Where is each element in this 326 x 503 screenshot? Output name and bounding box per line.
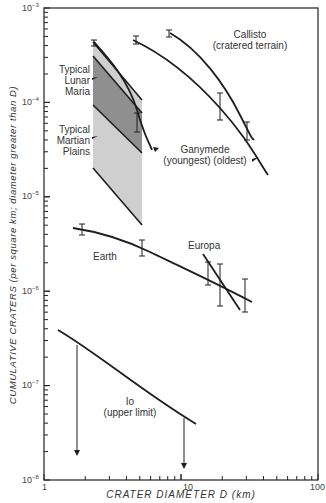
callisto-label: Callisto(cratered terrain): [205, 29, 295, 51]
europa-curve: [203, 254, 240, 310]
y-tick-1e-7: 10−7: [22, 379, 39, 390]
y-tick-1e-3: 10−3: [22, 2, 39, 13]
io-label: Io(upper limit): [95, 396, 165, 418]
arrow-down-icon: [74, 450, 80, 456]
lunar-maria-label: TypicalLunarMaria: [48, 64, 90, 97]
earth-curve: [73, 228, 252, 302]
arrow-down-icon: [181, 463, 187, 469]
y-tick-1e-6: 10−6: [22, 285, 39, 296]
x-axis-title: CRATER DIAMETER D (km): [44, 489, 318, 500]
y-tick-1e-4: 10−4: [22, 96, 39, 107]
y-tick-1e-5: 10−5: [22, 190, 39, 201]
earth-label: Earth: [93, 251, 117, 262]
ganymede-label: Ganymede(youngest) (oldest): [150, 144, 260, 166]
europa-label: Europa: [188, 240, 220, 251]
martian-plains-label: TypicalMartianPlains: [46, 124, 90, 157]
y-axis-title: CUMULATIVE CRATERS (per square km; diame…: [7, 86, 18, 405]
y-tick-1e-8: 10−8: [22, 474, 39, 485]
